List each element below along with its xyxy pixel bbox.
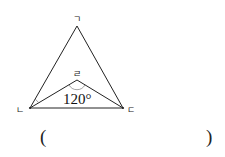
vertex-dot-nieun — [29, 107, 31, 109]
answer-blank[interactable] — [52, 128, 202, 146]
vertex-dot-digeut — [122, 107, 124, 109]
answer-open-paren: ( — [40, 126, 46, 148]
angle-arc-rieul — [69, 85, 85, 90]
label-rieul: ㄹ — [73, 69, 81, 79]
angle-value-label: 120° — [63, 91, 92, 107]
label-giyeok: ㄱ — [73, 14, 81, 24]
angle-arc-nieun — [35, 99, 38, 103]
answer-close-paren: ) — [206, 126, 212, 148]
label-digeut: ㄷ — [127, 105, 135, 115]
label-nieun: ㄴ — [16, 105, 24, 115]
